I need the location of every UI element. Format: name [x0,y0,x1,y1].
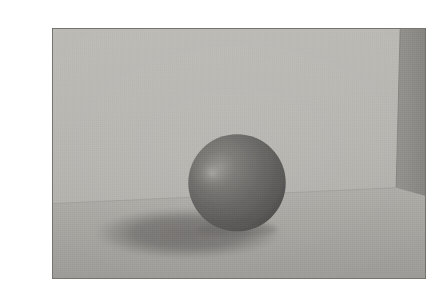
raytraced-scene [53,29,425,278]
render-image-frame [52,28,426,279]
contact-shadow [197,222,277,236]
specular-highlight [190,154,234,192]
